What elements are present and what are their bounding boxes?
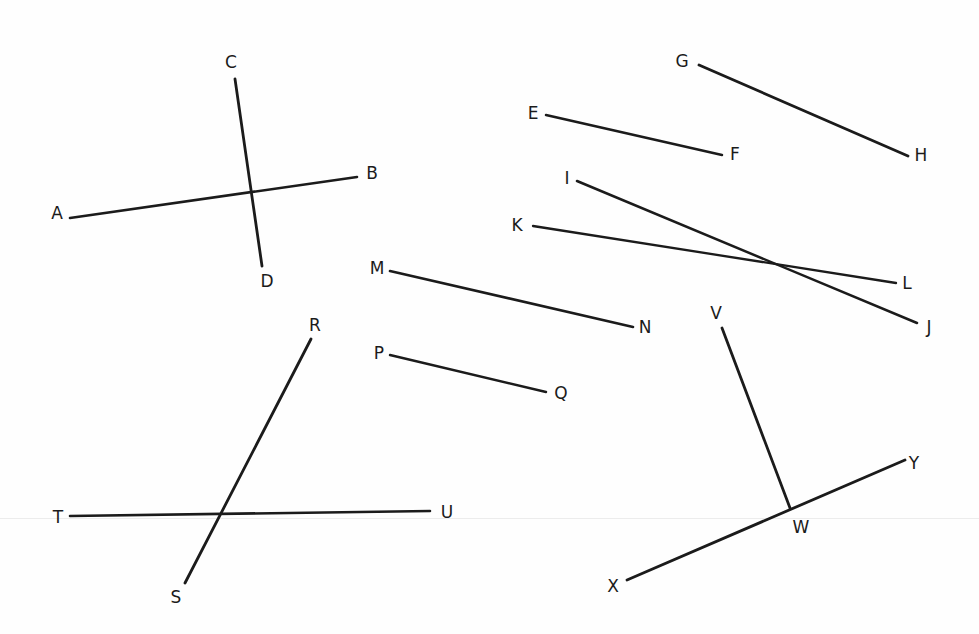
line-diagram-canvas: ABCDEFGHIJKLMNPQRSTUVWXY — [0, 0, 979, 634]
segment-layer — [0, 0, 979, 634]
point-label-d: D — [260, 273, 273, 290]
segment-xy — [627, 460, 905, 580]
segment-ab — [70, 177, 357, 218]
segment-rs — [185, 339, 311, 583]
point-label-t: T — [53, 509, 63, 526]
point-label-e: E — [528, 105, 539, 122]
point-label-i: I — [564, 170, 569, 187]
point-label-x: X — [607, 578, 619, 595]
point-label-b: B — [366, 165, 378, 182]
segment-cd — [235, 79, 262, 266]
point-label-v: V — [710, 305, 722, 322]
point-label-h: H — [915, 147, 928, 164]
segment-mn — [390, 271, 633, 327]
segment-pq — [390, 355, 546, 392]
segment-tu — [70, 511, 430, 516]
point-label-w: W — [793, 519, 810, 536]
point-label-s: S — [171, 589, 182, 606]
point-label-u: U — [441, 504, 453, 521]
point-label-n: N — [639, 319, 652, 336]
point-label-c: C — [225, 54, 237, 71]
segment-kl — [533, 226, 896, 283]
segment-gh — [699, 65, 908, 156]
point-label-m: M — [370, 260, 385, 277]
point-label-f: F — [730, 146, 740, 163]
segment-ef — [546, 115, 722, 155]
point-label-j: J — [926, 319, 931, 336]
segment-ij — [577, 181, 917, 323]
point-label-g: G — [675, 53, 688, 70]
segment-vw — [722, 328, 790, 508]
point-label-p: P — [374, 345, 384, 362]
point-label-q: Q — [554, 385, 567, 402]
point-label-l: L — [902, 275, 911, 292]
point-label-k: K — [511, 217, 522, 234]
point-label-y: Y — [909, 455, 919, 472]
point-label-a: A — [51, 205, 63, 222]
point-label-r: R — [309, 317, 321, 334]
